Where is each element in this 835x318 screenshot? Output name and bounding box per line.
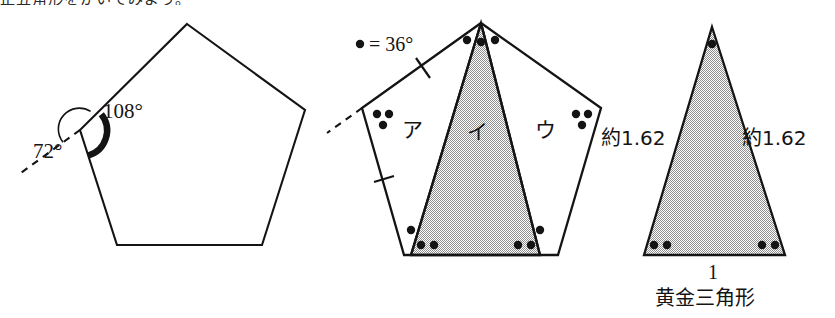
golden-triangle-caption: 黄金三角形 <box>655 288 755 308</box>
middle-extension-dashed-line <box>327 108 362 133</box>
left-pentagon-group <box>18 24 305 245</box>
left-side-length-label: 約1.62 <box>601 128 666 148</box>
left-pentagon-outline <box>80 24 305 245</box>
dot-legend-label: = 36° <box>369 34 413 54</box>
legend-dot-icon <box>356 40 364 48</box>
middle-pentagon-group <box>327 23 601 255</box>
right-side-length-label: 約1.62 <box>742 128 807 148</box>
region-label-b: イ <box>467 122 488 143</box>
left-vertex-dot-cluster <box>373 110 393 129</box>
region-label-a: ア <box>402 120 423 141</box>
geometry-figure: 正五角形をかいてみよう。 <box>0 0 835 318</box>
interior-angle-label-108: 108° <box>103 101 143 122</box>
right-vertex-dot-cluster <box>572 110 592 129</box>
base-right-outer-dot <box>536 226 544 234</box>
base-length-label: 1 <box>708 262 718 282</box>
golden-apex-dot <box>708 40 716 48</box>
region-label-c: ウ <box>535 120 556 141</box>
base-left-outer-dot <box>407 226 415 234</box>
exterior-angle-label-72: 72° <box>33 141 62 162</box>
